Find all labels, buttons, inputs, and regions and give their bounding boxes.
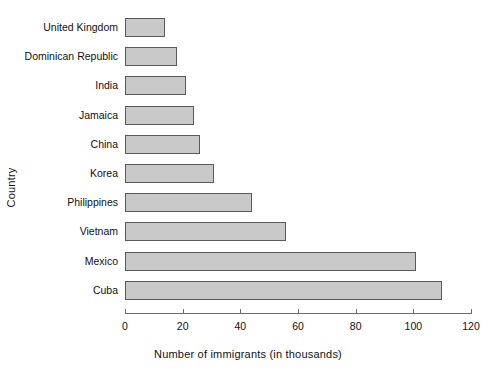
- bar-row: Philippines: [125, 193, 471, 212]
- bar: [125, 281, 442, 300]
- bar: [125, 18, 165, 37]
- category-label: Cuba: [93, 281, 118, 300]
- x-axis-title: Number of immigrants (in thousands): [0, 348, 496, 360]
- x-axis-tick: [298, 309, 299, 314]
- x-axis-tick: [413, 309, 414, 314]
- x-axis-tick-label: 40: [234, 320, 246, 332]
- bar: [125, 135, 200, 154]
- x-axis-tick-label: 80: [350, 320, 362, 332]
- category-label: India: [95, 76, 118, 95]
- bar-row: United Kingdom: [125, 18, 471, 37]
- bar: [125, 106, 194, 125]
- x-axis-tick-label: 100: [405, 320, 423, 332]
- bar: [125, 193, 252, 212]
- x-axis-tick: [125, 309, 126, 314]
- bar-row: China: [125, 135, 471, 154]
- x-axis-tick-label: 120: [462, 320, 480, 332]
- x-axis-tick-label: 60: [292, 320, 304, 332]
- bar-row: Mexico: [125, 252, 471, 271]
- bar-row: Cuba: [125, 281, 471, 300]
- bar-row: Korea: [125, 164, 471, 183]
- bar-row: India: [125, 76, 471, 95]
- category-label: Korea: [90, 164, 118, 183]
- bar-row: Dominican Republic: [125, 47, 471, 66]
- x-axis-tick: [183, 309, 184, 314]
- bar-row: Vietnam: [125, 222, 471, 241]
- bar-row: Jamaica: [125, 106, 471, 125]
- bar: [125, 222, 286, 241]
- bar-chart: Country United KingdomDominican Republic…: [0, 0, 496, 375]
- x-axis-tick-label: 20: [177, 320, 189, 332]
- category-label: Jamaica: [79, 106, 118, 125]
- x-axis: 020406080100120: [125, 313, 471, 314]
- y-axis-title: Country: [0, 0, 22, 375]
- bar: [125, 252, 416, 271]
- category-label: Dominican Republic: [25, 47, 118, 66]
- x-axis-tick-label: 0: [122, 320, 128, 332]
- x-axis-tick: [471, 309, 472, 314]
- category-label: Vietnam: [80, 222, 118, 241]
- category-label: United Kingdom: [43, 18, 118, 37]
- category-label: China: [91, 135, 118, 154]
- x-axis-tick: [356, 309, 357, 314]
- category-label: Philippines: [67, 193, 118, 212]
- x-axis-tick: [240, 309, 241, 314]
- bar: [125, 76, 186, 95]
- bar: [125, 47, 177, 66]
- bar: [125, 164, 214, 183]
- category-label: Mexico: [85, 252, 118, 271]
- plot-area: United KingdomDominican RepublicIndiaJam…: [125, 10, 471, 313]
